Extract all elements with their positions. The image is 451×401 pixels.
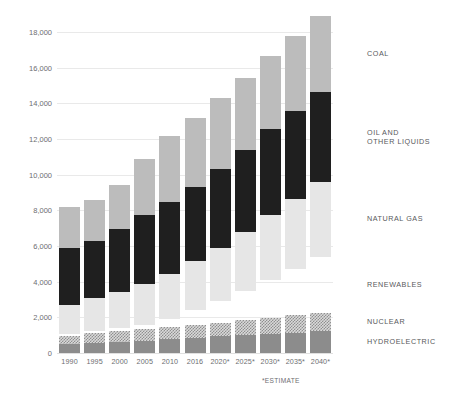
bar-segment-hydro bbox=[134, 341, 155, 353]
bar-segment-coal bbox=[185, 118, 206, 187]
bar-segment-hydro bbox=[310, 331, 331, 353]
stacked-bar-chart: 02,0004,0006,0008,00010,00012,00014,0001… bbox=[0, 0, 451, 401]
bar-segment-hydro bbox=[210, 336, 231, 353]
bar-2010 bbox=[159, 136, 180, 353]
bar-segment-hydro bbox=[260, 334, 281, 353]
bar-segment-nuclear bbox=[310, 313, 331, 332]
bar-segment-gas bbox=[260, 215, 281, 280]
bar-segment-gas bbox=[134, 284, 155, 326]
bar-segment-coal bbox=[285, 36, 306, 110]
bar-segment-hydro bbox=[285, 333, 306, 353]
legend-item-coal: COAL bbox=[367, 49, 389, 59]
bar-segment-hydro bbox=[109, 342, 130, 353]
bar-segment-gas bbox=[84, 298, 105, 330]
y-axis-tick-label: 0 bbox=[48, 349, 52, 358]
legend-item-oil: OIL AND OTHER LIQUIDS bbox=[367, 127, 430, 146]
x-axis-tick-label: 2030* bbox=[261, 357, 280, 366]
x-axis-tick-label: 2025* bbox=[236, 357, 255, 366]
bar-segment-gas bbox=[310, 182, 331, 257]
bar-segment-nuclear bbox=[84, 333, 105, 344]
bar-2035 bbox=[285, 36, 306, 353]
x-axis-tick-label: 2000 bbox=[112, 357, 128, 366]
bar-segment-gas bbox=[285, 199, 306, 269]
y-axis-tick-label: 16,000 bbox=[29, 63, 52, 72]
bar-segment-nuclear bbox=[159, 327, 180, 340]
bar-segment-hydro bbox=[84, 343, 105, 353]
bar-segment-oil bbox=[59, 248, 80, 305]
bar-2016 bbox=[185, 118, 206, 353]
gridline bbox=[57, 32, 333, 33]
x-axis-labels: 1990199520002005201020162020*2025*2030*2… bbox=[57, 357, 333, 371]
bar-segment-renewables bbox=[235, 291, 256, 320]
bar-segment-renewables bbox=[185, 310, 206, 325]
bar-segment-renewables bbox=[310, 257, 331, 313]
bar-2025 bbox=[235, 78, 256, 353]
bar-segment-gas bbox=[210, 248, 231, 302]
y-axis-tick-label: 18,000 bbox=[29, 28, 52, 37]
bar-segment-hydro bbox=[59, 344, 80, 353]
bar-segment-gas bbox=[185, 261, 206, 310]
y-axis-tick-label: 2,000 bbox=[33, 313, 52, 322]
x-axis-tick-label: 1995 bbox=[86, 357, 102, 366]
bar-segment-gas bbox=[159, 274, 180, 319]
bar-segment-nuclear bbox=[109, 331, 130, 342]
y-axis-labels: 02,0004,0006,0008,00010,00012,00014,0001… bbox=[0, 0, 52, 401]
x-axis-tick-label: 2040* bbox=[311, 357, 330, 366]
bar-segment-oil bbox=[235, 150, 256, 232]
bar-segment-nuclear bbox=[235, 320, 256, 335]
bar-segment-nuclear bbox=[185, 325, 206, 338]
legend-item-gas: NATURAL GAS bbox=[367, 214, 423, 224]
bar-segment-coal bbox=[235, 78, 256, 150]
bar-segment-coal bbox=[159, 136, 180, 202]
bar-segment-nuclear bbox=[59, 336, 80, 344]
bar-segment-coal bbox=[310, 16, 331, 91]
bar-segment-oil bbox=[109, 229, 130, 292]
x-axis-tick-label: 2005 bbox=[137, 357, 153, 366]
x-axis-tick-label: 1990 bbox=[61, 357, 77, 366]
bar-segment-hydro bbox=[235, 335, 256, 353]
bar-2030 bbox=[260, 56, 281, 353]
y-axis-tick-label: 4,000 bbox=[33, 277, 52, 286]
bar-segment-renewables bbox=[285, 269, 306, 315]
bar-segment-oil bbox=[84, 241, 105, 298]
bar-segment-renewables bbox=[210, 301, 231, 322]
bar-1995 bbox=[84, 200, 105, 353]
bar-segment-nuclear bbox=[134, 329, 155, 341]
bar-segment-hydro bbox=[185, 338, 206, 354]
bar-segment-oil bbox=[310, 92, 331, 182]
bar-1990 bbox=[59, 207, 80, 353]
bar-segment-renewables bbox=[260, 280, 281, 317]
bar-segment-oil bbox=[134, 215, 155, 284]
bar-segment-coal bbox=[210, 98, 231, 169]
y-axis-tick-label: 8,000 bbox=[33, 206, 52, 215]
bar-segment-gas bbox=[235, 232, 256, 291]
plot-area bbox=[57, 32, 333, 353]
bar-segment-renewables bbox=[159, 319, 180, 327]
bar-2020 bbox=[210, 98, 231, 353]
bar-segment-oil bbox=[260, 129, 281, 215]
legend-item-renewables: RENEWABLES bbox=[367, 280, 422, 290]
bar-segment-gas bbox=[109, 292, 130, 329]
bar-segment-coal bbox=[109, 185, 130, 228]
bar-segment-gas bbox=[59, 305, 80, 334]
bar-segment-oil bbox=[210, 169, 231, 248]
bar-segment-nuclear bbox=[210, 323, 231, 337]
bar-segment-oil bbox=[185, 187, 206, 261]
bar-segment-coal bbox=[59, 207, 80, 248]
bar-segment-nuclear bbox=[260, 318, 281, 334]
x-axis-tick-label: 2020* bbox=[210, 357, 229, 366]
bar-segment-coal bbox=[134, 159, 155, 215]
bar-segment-coal bbox=[84, 200, 105, 241]
x-axis-tick-label: 2010 bbox=[162, 357, 178, 366]
bar-segment-hydro bbox=[159, 339, 180, 353]
bar-segment-oil bbox=[285, 111, 306, 199]
bar-segment-coal bbox=[260, 56, 281, 129]
x-axis-tick-label: 2035* bbox=[286, 357, 305, 366]
legend-item-hydro: HYDROELECTRIC bbox=[367, 337, 436, 347]
bar-2005 bbox=[134, 159, 155, 353]
bar-2040 bbox=[310, 16, 331, 353]
y-axis-tick-label: 10,000 bbox=[29, 170, 52, 179]
bar-segment-nuclear bbox=[285, 315, 306, 332]
y-axis-tick-label: 14,000 bbox=[29, 99, 52, 108]
y-axis-tick-label: 6,000 bbox=[33, 242, 52, 251]
